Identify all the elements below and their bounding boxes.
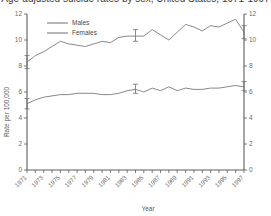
- legend-label-females: Females: [72, 29, 98, 36]
- error-bars-group: [25, 26, 247, 109]
- y-tick-label-left: 6: [18, 88, 22, 95]
- x-tick-label: 1973: [30, 173, 45, 188]
- x-tick-label: 1977: [63, 173, 78, 188]
- legend-label-males: Males: [72, 19, 90, 26]
- y-tick-label-right: 6: [249, 88, 253, 95]
- x-tick-label: 1987: [147, 173, 162, 188]
- y-tick-label-left: 0: [18, 166, 22, 173]
- y-tick-label-right: 10: [249, 36, 257, 43]
- x-tick-label: 1979: [80, 173, 95, 188]
- y-axis-label: Rate per 100,000: [3, 87, 11, 138]
- x-axis-label: Year: [141, 205, 155, 212]
- y-tick-label-right: 8: [249, 62, 253, 69]
- y-tick-label-right: 12: [249, 10, 257, 17]
- y-axis-left: 024681012: [15, 10, 27, 173]
- x-tick-label: 1991: [180, 173, 195, 188]
- y-tick-label-left: 2: [18, 140, 22, 147]
- x-axis: 1971197319751977197919811983198519871989…: [13, 170, 245, 188]
- chart-legend: MalesFemales: [47, 19, 98, 36]
- x-tick-label: 1993: [197, 173, 212, 188]
- x-tick-label: 1985: [130, 173, 145, 188]
- y-tick-label-left: 8: [18, 62, 22, 69]
- y-axis-right: 024681012: [244, 10, 257, 173]
- y-tick-label-right: 2: [249, 140, 253, 147]
- y-tick-label-left: 10: [15, 36, 23, 43]
- y-tick-label-left: 4: [18, 114, 22, 121]
- y-tick-label-right: 0: [249, 166, 253, 173]
- x-tick-label: 1989: [163, 173, 178, 188]
- y-tick-label-left: 12: [15, 10, 23, 17]
- x-tick-label: 1983: [113, 173, 128, 188]
- x-tick-label: 1971: [13, 173, 28, 188]
- y-tick-label-right: 4: [249, 114, 253, 121]
- x-tick-label: 1997: [230, 173, 245, 188]
- x-tick-label: 1995: [213, 173, 228, 188]
- chart-container: Age-adjusted suicide rates by sex, Unite…: [0, 0, 271, 216]
- x-tick-label: 1975: [46, 173, 61, 188]
- plot-area: 024681012 024681012 19711973197519771979…: [0, 0, 271, 216]
- x-tick-label: 1981: [96, 173, 111, 188]
